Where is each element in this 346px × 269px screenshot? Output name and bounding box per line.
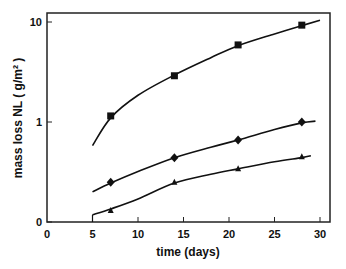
x-tick-label: 0 (44, 228, 50, 240)
x-axis-label: time (days) (156, 245, 219, 259)
series-triangle (93, 153, 311, 222)
x-tick-label: 15 (177, 228, 189, 240)
diamond-marker (234, 136, 242, 145)
series-diamond (93, 118, 316, 192)
plot-frame (47, 13, 330, 222)
x-tick-label: 25 (268, 228, 280, 240)
chart: 051015202530 1010 time (days) mass loss … (0, 0, 346, 269)
fit-curve-diamond (93, 121, 316, 192)
data-series (93, 20, 321, 222)
x-tick-label: 20 (223, 228, 235, 240)
diamond-marker (298, 118, 306, 127)
square-marker (171, 72, 178, 79)
y-axis-label: mass loss NL ( g/m² ) (11, 58, 25, 178)
triangle-marker (299, 153, 305, 159)
x-tick-label: 10 (132, 228, 144, 240)
y-tick-label: 0 (36, 216, 42, 228)
y-tick-label: 1 (36, 116, 42, 128)
fit-curve-triangle (93, 156, 311, 215)
diamond-marker (107, 178, 115, 187)
square-marker (235, 41, 242, 48)
x-axis-ticks: 051015202530 (44, 217, 326, 240)
x-tick-label: 30 (314, 228, 326, 240)
square-marker (298, 22, 305, 29)
y-tick-label: 10 (30, 16, 42, 28)
diamond-marker (170, 153, 178, 162)
square-marker (107, 112, 114, 119)
y-axis-ticks: 1010 (30, 16, 52, 228)
x-tick-label: 5 (89, 228, 95, 240)
